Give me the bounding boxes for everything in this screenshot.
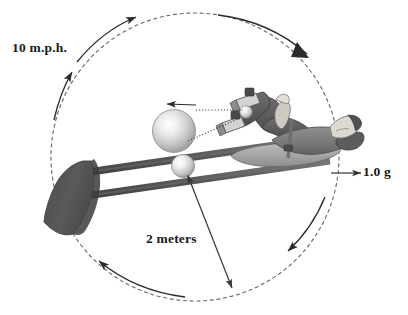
speed-label: 10 m.p.h. bbox=[12, 40, 67, 56]
figure-canvas: 10 m.p.h. 2 meters 1.0 g bbox=[0, 0, 408, 315]
rotation-arrow-bottom-left bbox=[99, 261, 185, 297]
rotation-arrow-top-right bbox=[218, 15, 309, 58]
harness-buckle bbox=[284, 145, 293, 151]
acceleration-label: 1.0 g bbox=[363, 164, 391, 180]
reclined-person bbox=[216, 88, 364, 167]
pedal-joint-sphere bbox=[240, 106, 252, 118]
small-sphere bbox=[172, 155, 195, 178]
large-sphere bbox=[153, 110, 196, 153]
tangential-velocity-arrow bbox=[167, 104, 196, 105]
radius-label: 2 meters bbox=[146, 231, 197, 247]
rotation-arrow-top-left bbox=[77, 17, 136, 62]
rotation-arrow-bottom-right bbox=[288, 197, 325, 251]
counterweight-paddle bbox=[44, 159, 100, 235]
rotation-arrow-left bbox=[54, 72, 72, 120]
